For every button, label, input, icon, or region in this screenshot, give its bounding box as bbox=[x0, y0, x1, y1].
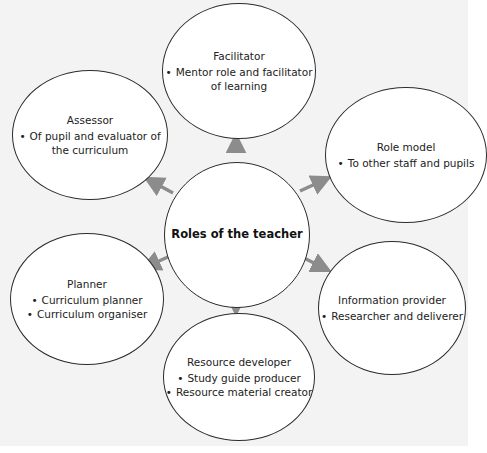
bullet-item: •Resource material creator bbox=[166, 385, 312, 399]
node-title: Role model bbox=[377, 140, 436, 154]
bullet-icon: • bbox=[31, 293, 37, 307]
bullet-item: •Researcher and deliverer bbox=[321, 309, 463, 323]
node-resource-developer: Resource developer •Study guide producer… bbox=[163, 313, 315, 441]
arrow-to-role-model bbox=[300, 180, 324, 191]
node-bullets: •To other staff and pupils bbox=[338, 156, 475, 170]
node-assessor: Assessor •Of pupil and evaluator of the … bbox=[12, 70, 168, 200]
node-bullets: •Researcher and deliverer bbox=[321, 309, 463, 323]
bullet-item: •Study guide producer bbox=[166, 371, 312, 385]
node-title: Facilitator bbox=[213, 49, 264, 63]
node-title: Resource developer bbox=[187, 355, 291, 369]
bullet-icon: • bbox=[338, 156, 344, 170]
bullet-icon: • bbox=[166, 65, 172, 79]
bullet-item: •Curriculum planner bbox=[27, 293, 148, 307]
node-role-model: Role model •To other staff and pupils bbox=[325, 87, 487, 223]
bullet-icon: • bbox=[166, 385, 172, 399]
arrow-to-assessor bbox=[151, 181, 173, 193]
bullet-item: •Of pupil and evaluator of bbox=[19, 129, 160, 143]
node-center: Roles of the teacher bbox=[164, 162, 310, 308]
node-information-provider: Information provider •Researcher and del… bbox=[318, 241, 466, 375]
bullet-icon: • bbox=[177, 371, 183, 385]
bullet-item: •Mentor role and facilitator bbox=[166, 65, 313, 79]
bullet-icon: • bbox=[27, 307, 33, 321]
bullet-continuation: of learning bbox=[166, 79, 313, 93]
node-bullets: •Of pupil and evaluator of the curriculu… bbox=[19, 129, 160, 157]
bullet-icon: • bbox=[321, 309, 327, 323]
bullet-icon: • bbox=[19, 129, 25, 143]
node-title: Assessor bbox=[67, 113, 113, 127]
bullet-continuation: the curriculum bbox=[19, 143, 160, 157]
node-title: Planner bbox=[67, 277, 107, 291]
node-planner: Planner •Curriculum planner •Curriculum … bbox=[10, 233, 164, 365]
node-facilitator: Facilitator •Mentor role and facilitator… bbox=[162, 3, 316, 139]
bullet-item: •Curriculum organiser bbox=[27, 307, 148, 321]
node-bullets: •Curriculum planner •Curriculum organise… bbox=[27, 293, 148, 321]
node-title: Information provider bbox=[338, 293, 446, 307]
node-bullets: •Study guide producer •Resource material… bbox=[166, 371, 312, 399]
node-bullets: •Mentor role and facilitator of learning bbox=[166, 65, 313, 93]
bullet-item: •To other staff and pupils bbox=[338, 156, 475, 170]
center-title: Roles of the teacher bbox=[171, 227, 302, 241]
